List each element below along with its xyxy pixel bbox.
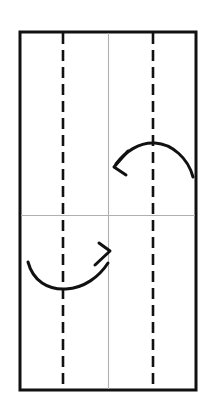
origami-diagram-figure bbox=[0, 0, 214, 418]
diagram-svg-canvas bbox=[0, 0, 214, 418]
